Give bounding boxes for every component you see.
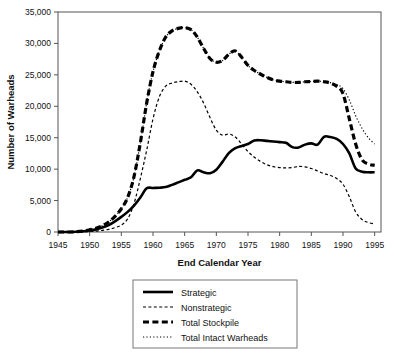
x-tick-label: 1960 [144,240,163,250]
legend-item-strategic[interactable]: Strategic [143,288,217,298]
y-tick-label: 5,000 [30,196,52,206]
x-tick-label: 1980 [270,240,289,250]
x-axis-title: End Calendar Year [178,257,262,268]
series-line-nonstrategic [58,81,375,232]
x-tick-label: 1965 [175,240,194,250]
legend-label: Total Stockpile [181,318,239,328]
x-tick-label: 1950 [80,240,99,250]
series-line-total-stockpile [58,28,375,232]
y-tick-label: 25,000 [25,70,51,80]
y-tick-label: 10,000 [25,164,51,174]
series-line-strategic [58,136,375,232]
x-tick-label: 1995 [365,240,384,250]
x-tick-label: 1990 [334,240,353,250]
x-tick-label: 1975 [239,240,258,250]
x-tick-label: 1945 [49,240,68,250]
legend-item-total-stockpile[interactable]: Total Stockpile [143,318,239,328]
series-line-total-intact-warheads [58,28,375,232]
x-tick-label: 1985 [302,240,321,250]
y-tick-label: 20,000 [25,101,51,111]
legend-label: Total Intact Warheads [181,333,268,343]
legend-item-total-intact-warheads[interactable]: Total Intact Warheads [143,333,268,343]
warheads-line-chart: 05,00010,00015,00020,00025,00030,00035,0… [0,0,394,354]
y-tick-label: 15,000 [25,133,51,143]
chart-container: 05,00010,00015,00020,00025,00030,00035,0… [0,0,394,354]
legend-label: Strategic [181,288,217,298]
y-axis-title: Number of Warheads [5,74,16,169]
legend-item-nonstrategic[interactable]: Nonstrategic [143,303,232,313]
y-tick-label: 30,000 [25,38,51,48]
x-tick-label: 1955 [112,240,131,250]
plot-frame [58,12,381,232]
x-tick-label: 1970 [207,240,226,250]
y-tick-label: 0 [46,227,51,237]
y-tick-label: 35,000 [25,7,51,17]
legend-label: Nonstrategic [181,303,232,313]
